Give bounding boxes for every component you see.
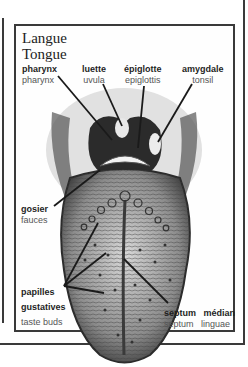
label-taste-buds-french-2: gustatives <box>21 300 66 315</box>
label-tonsil: amygdale tonsil <box>182 64 224 86</box>
label-fauces-english: fauces <box>21 215 48 226</box>
label-epiglottis: épiglotte epiglottis <box>124 64 162 86</box>
label-taste-buds-english-2: buds <box>43 317 63 327</box>
label-septum-french-2: médian <box>204 308 236 318</box>
label-taste-buds: papilles gustatives taste buds <box>21 285 66 330</box>
label-epiglottis-french: épiglotte <box>124 64 162 75</box>
label-septum-french-1: septum <box>164 308 196 318</box>
label-taste-buds-english-1: taste <box>21 317 41 327</box>
label-uvula: luette uvula <box>82 64 106 86</box>
label-fauces-french: gosier <box>21 204 48 215</box>
label-tonsil-english: tonsil <box>182 75 224 86</box>
diagram-title: Langue Tongue <box>22 30 67 62</box>
label-septum-english-2: linguae <box>201 319 230 329</box>
label-pharynx-french: pharynx <box>22 64 57 75</box>
label-taste-buds-french-1: papilles <box>21 285 66 300</box>
label-tonsil-french: amygdale <box>182 64 224 75</box>
label-epiglottis-english: epiglottis <box>124 75 162 86</box>
label-uvula-french: luette <box>82 64 106 75</box>
title-english: Tongue <box>22 46 67 62</box>
tongue-body <box>61 169 190 363</box>
label-fauces: gosier fauces <box>21 204 48 226</box>
label-septum: septum médian septum linguae <box>164 308 235 330</box>
label-uvula-english: uvula <box>82 75 106 86</box>
label-pharynx: pharynx pharynx <box>22 64 57 86</box>
label-pharynx-english: pharynx <box>22 75 57 86</box>
label-septum-english-1: septum <box>164 319 194 329</box>
title-french: Langue <box>22 30 67 46</box>
